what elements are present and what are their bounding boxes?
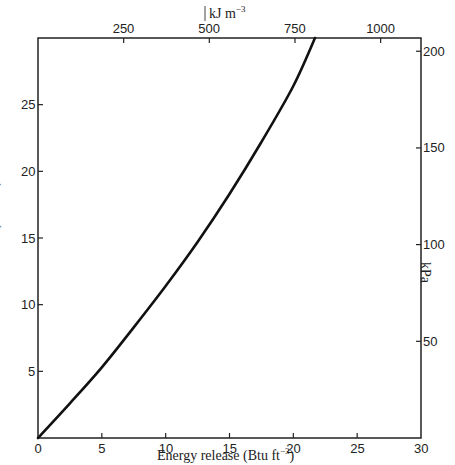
y-axis-title-text: Pressure rise (lbf in [0,195,1,304]
x-axis-title-end: ) [290,448,295,463]
top-tick-label: 250 [113,22,135,35]
data-curve [38,38,315,438]
x-tick-label: 5 [98,442,105,455]
top-tick-label: 750 [284,22,306,35]
y-tick-label: 15 [21,232,35,245]
x-tick-label: 30 [414,442,428,455]
y-tick-label: 10 [21,298,35,311]
right-axis-unit: kPa [417,262,433,283]
x-tick-label: 25 [350,442,364,455]
y-axis-title-end: ) [0,181,1,186]
y-tick-label: 5 [28,365,35,378]
y-tick-label: 20 [21,165,35,178]
x-tick-label: 0 [35,442,42,455]
plot-frame [38,38,421,438]
y-tick-label: 25 [21,98,35,111]
x-axis-title: Energy release (Btu ft−3) [157,446,294,464]
x-axis-title-sup: −3 [280,446,290,456]
right-tick-label: 150 [423,141,445,154]
y-axis-title: Pressure rise (lbf in−2) [0,181,2,305]
right-axis-unit-text: kPa [418,262,433,283]
right-tick-label: 100 [423,238,445,251]
top-axis-unit-sup: −3 [236,4,246,14]
x-axis-title-text: Energy release (Btu ft [157,448,280,463]
top-axis-unit: kJ m−3 [209,4,245,22]
right-tick-label: 50 [423,335,437,348]
tick-marks [38,38,421,438]
top-tick-label: 1000 [366,22,395,35]
top-tick-label: 500 [198,22,220,35]
chart-canvas [0,0,455,465]
top-axis-unit-text: kJ m [209,6,236,21]
right-tick-label: 200 [423,45,445,58]
